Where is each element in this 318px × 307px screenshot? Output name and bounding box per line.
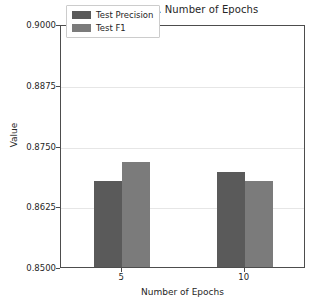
x-axis-tick-label: 10 (224, 272, 264, 282)
plot-area (60, 25, 305, 268)
legend-label: Test F1 (96, 23, 126, 33)
y-axis-tick-label: 0.9000 (8, 20, 56, 30)
bar (245, 181, 273, 267)
legend-item: Test F1 (72, 23, 153, 33)
chart-figure: Metrics vs. Number of Epochs Value 0.850… (0, 0, 318, 307)
y-axis-tick-label: 0.8875 (8, 81, 56, 91)
x-axis-label: Number of Epochs (60, 287, 305, 297)
chart-legend: Test PrecisionTest F1 (66, 5, 160, 38)
gridline (61, 87, 304, 88)
y-axis-tick-label: 0.8750 (8, 142, 56, 152)
bar (94, 181, 122, 267)
bar (217, 172, 245, 267)
legend-item: Test Precision (72, 10, 153, 20)
gridline (61, 148, 304, 149)
y-axis-tick-label: 0.8625 (8, 202, 56, 212)
x-axis-tick-label: 5 (101, 272, 141, 282)
y-axis-tick-label: 0.8500 (8, 263, 56, 273)
legend-label: Test Precision (96, 10, 153, 20)
y-axis-label: Value (9, 105, 19, 165)
legend-swatch-icon (72, 24, 91, 32)
legend-swatch-icon (72, 11, 91, 19)
bar (122, 162, 150, 267)
y-axis-tick-mark (56, 268, 60, 269)
